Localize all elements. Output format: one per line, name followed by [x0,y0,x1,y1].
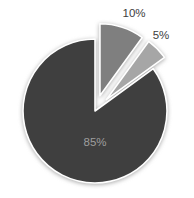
pie-chart-figure: 10% 5% 85% [0,0,194,198]
slice-label-85-percent: 85% [78,136,112,148]
slice-label-5-percent: 5% [148,29,174,41]
slice-label-10-percent: 10% [119,7,149,19]
